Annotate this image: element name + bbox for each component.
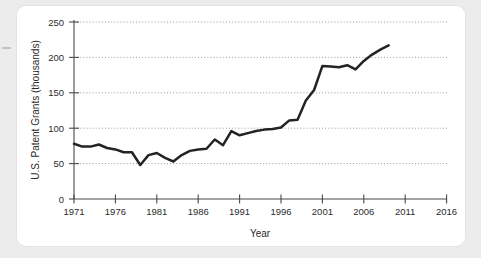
x-tick-label: 2001 — [312, 206, 333, 217]
y-tick-label: 50 — [53, 158, 64, 169]
page-background: 250 200 150 100 50 0 — [0, 0, 481, 258]
y-tick-label: 150 — [48, 87, 64, 98]
x-tick-label: 1996 — [270, 206, 291, 217]
data-series-line — [74, 45, 389, 165]
figure-card: 250 200 150 100 50 0 — [17, 6, 465, 246]
x-tick-label: 2016 — [436, 206, 457, 217]
x-tick-label: 1986 — [188, 206, 209, 217]
gridlines — [74, 22, 447, 164]
x-axis-tick-labels: 1971 1976 1981 1986 1991 1996 2001 2006 … — [63, 206, 457, 217]
y-tick-label: 0 — [59, 194, 64, 205]
x-tick-label: 2006 — [353, 206, 374, 217]
x-tick-label: 2011 — [395, 206, 415, 217]
x-tick-label: 1976 — [105, 206, 126, 217]
x-axis-title: Year — [250, 228, 271, 239]
chart-plot-area: 250 200 150 100 50 0 — [17, 6, 465, 246]
y-tick-label: 250 — [48, 17, 64, 28]
x-tick-label: 1991 — [229, 206, 250, 217]
y-axis-title: U.S. Patent Grants (thousands) — [30, 40, 41, 180]
y-tick-label: 200 — [48, 52, 64, 63]
scan-artifact-mark — [2, 47, 11, 49]
line-chart: 250 200 150 100 50 0 — [17, 6, 465, 246]
x-tick-label: 1981 — [146, 206, 167, 217]
y-axis-tick-labels: 250 200 150 100 50 0 — [48, 17, 64, 205]
y-tick-label: 100 — [48, 123, 64, 134]
x-tick-label: 1971 — [63, 206, 84, 217]
